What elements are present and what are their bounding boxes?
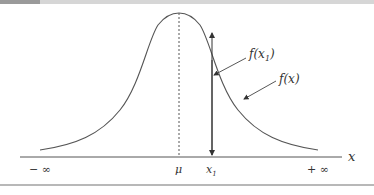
fx-leader xyxy=(244,81,276,99)
mean-label: μ xyxy=(175,163,182,176)
positive-infinity-label: + ∞ xyxy=(307,163,329,176)
fx-label: f(x) xyxy=(278,72,300,86)
x1-label: x1 xyxy=(206,163,217,178)
normal-distribution-diagram: f(x1) f(x) x − ∞ + ∞ μ x1 xyxy=(0,0,374,195)
negative-infinity-label: − ∞ xyxy=(29,163,51,176)
axis-label: x xyxy=(348,149,356,164)
fx1-leader xyxy=(214,58,246,75)
fx1-label: f(x1) xyxy=(248,47,275,63)
bottom-border xyxy=(0,184,374,186)
